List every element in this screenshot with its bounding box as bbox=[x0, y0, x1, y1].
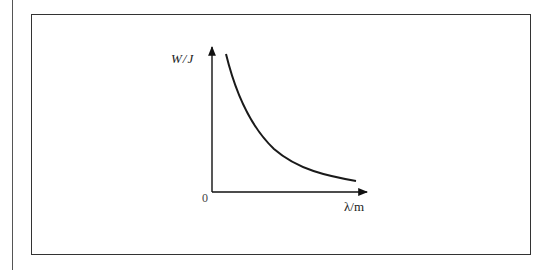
chart-plot bbox=[0, 0, 556, 270]
origin-label: 0 bbox=[202, 191, 208, 206]
y-axis-label: W/J bbox=[171, 51, 194, 67]
w-lambda-curve bbox=[226, 54, 356, 181]
x-axis-label: λ/m bbox=[344, 199, 364, 215]
